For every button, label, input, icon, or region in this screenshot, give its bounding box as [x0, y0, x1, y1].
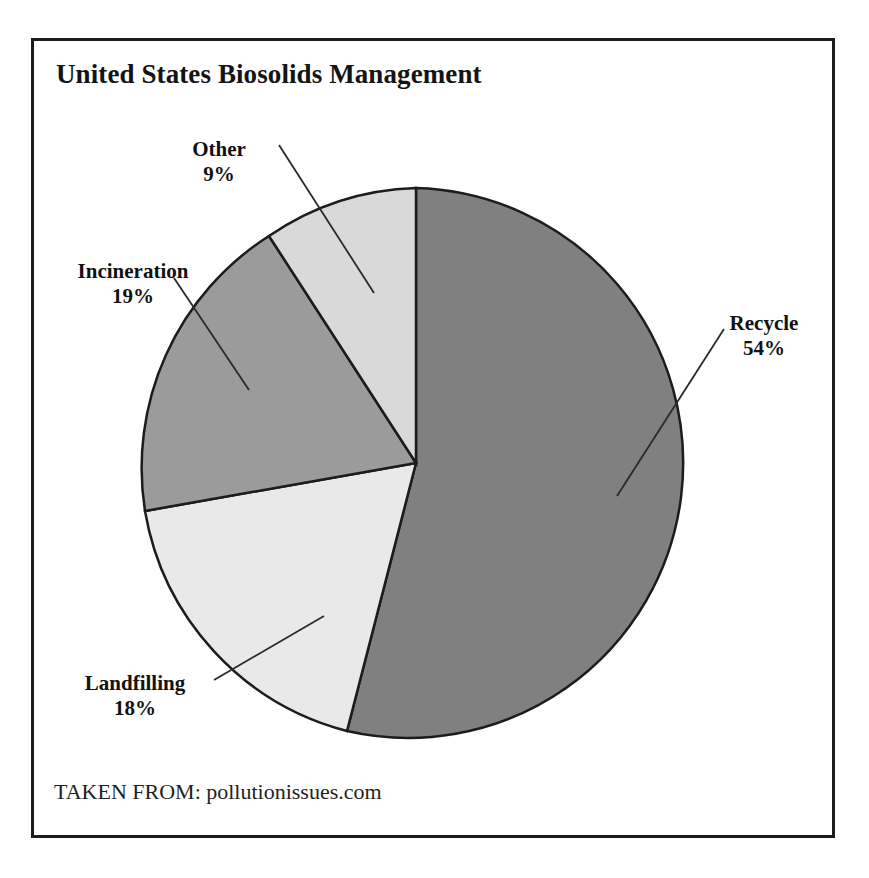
pie-label-other: Other 9%	[159, 137, 279, 187]
figure-frame: United States Biosolids Management Other…	[31, 38, 835, 838]
pie-label-other-name: Other	[192, 137, 246, 161]
pie-label-landfilling: Landfilling 18%	[50, 671, 220, 721]
pie-label-landfilling-value: 18%	[50, 696, 220, 721]
pie-label-recycle-name: Recycle	[730, 311, 799, 335]
pie-label-recycle: Recycle 54%	[698, 311, 830, 361]
pie-label-recycle-value: 54%	[698, 336, 830, 361]
source-attribution: TAKEN FROM: pollutionissues.com	[54, 779, 382, 805]
pie-label-incineration-value: 19%	[35, 284, 231, 309]
pie-label-landfilling-name: Landfilling	[85, 671, 185, 695]
pie-label-incineration: Incineration 19%	[35, 259, 231, 309]
pie-label-other-value: 9%	[159, 162, 279, 187]
pie-label-incineration-name: Incineration	[78, 259, 189, 283]
